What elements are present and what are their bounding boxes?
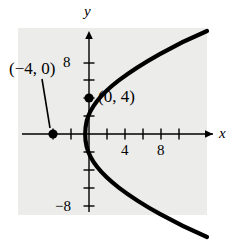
x-tick-label-8: 8 [157, 143, 165, 158]
vertex-leader-line [42, 79, 50, 128]
graph-figure: x y 8 −8 4 8 (−4, 0) (0, 4) [0, 0, 240, 241]
y-intercept-point-label: (0, 4) [98, 88, 135, 105]
vertex-point-label: (−4, 0) [9, 60, 55, 77]
y-axis-label: y [84, 4, 91, 19]
vertex-point-dot [48, 129, 57, 138]
x-axis-label: x [219, 126, 226, 141]
x-tick-label-4: 4 [121, 143, 129, 158]
y-intercept-point-dot [84, 93, 93, 102]
y-tick-label-8: 8 [63, 55, 71, 70]
y-tick-label-neg8: −8 [55, 199, 71, 214]
graph-canvas [0, 0, 240, 241]
